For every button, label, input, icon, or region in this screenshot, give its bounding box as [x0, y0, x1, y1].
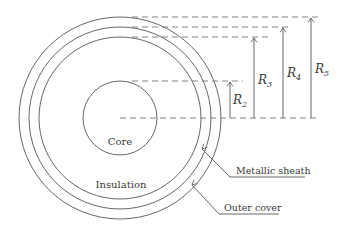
leader-metallic-sheath-diag [202, 149, 230, 177]
label-r5: R5 [314, 62, 329, 78]
label-r2: R2 [232, 93, 247, 109]
leader-outer-cover-diag [192, 185, 219, 214]
label-outer-cover: Outer cover [224, 202, 282, 213]
label-r3: R3 [257, 73, 272, 89]
cable-diagram: R2 R3 R4 R5 Core Insulation Metallic she… [0, 0, 340, 230]
label-core: Core [108, 136, 132, 147]
label-metallic-sheath: Metallic sheath [236, 165, 311, 176]
label-insulation: Insulation [96, 179, 147, 190]
label-r4: R4 [286, 66, 301, 82]
